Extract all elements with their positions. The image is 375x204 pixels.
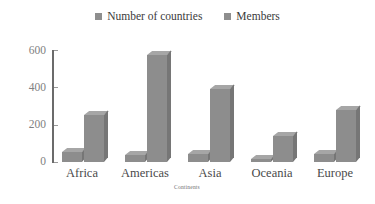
x-axis-line [52, 162, 53, 163]
bar-europe-number-of-countries[interactable] [314, 144, 334, 162]
bar-europe-members[interactable] [336, 110, 356, 162]
bar-africa-members[interactable] [84, 115, 104, 162]
y-axis-tick-label-400: 400 [12, 81, 46, 93]
y-axis-tick-label-0: 0 [12, 155, 46, 167]
bar-asia-number-of-countries[interactable] [188, 144, 208, 162]
plot-area: 600 400 200 0 [0, 0, 375, 204]
bar-asia-members[interactable] [210, 89, 230, 162]
bar-chart: Number of countries Members 600 400 200 … [0, 0, 375, 204]
y-axis-tick-600 [54, 50, 58, 51]
bar-americas-members[interactable] [147, 55, 167, 162]
x-axis-title: Continents [147, 184, 227, 190]
y-axis-tick-label-600: 600 [12, 44, 46, 56]
y-axis-tick-0 [54, 162, 58, 163]
y-axis-line [52, 50, 54, 163]
y-axis-tick-400 [54, 87, 58, 88]
bar-oceania-members[interactable] [273, 136, 293, 162]
y-axis-tick-200 [54, 125, 58, 126]
bar-americas-number-of-countries[interactable] [125, 145, 145, 162]
bar-africa-number-of-countries[interactable] [62, 142, 82, 162]
y-axis-tick-label-200: 200 [12, 118, 46, 130]
x-axis-label-europe: Europe [295, 166, 375, 181]
bar-oceania-number-of-countries[interactable] [251, 149, 271, 162]
